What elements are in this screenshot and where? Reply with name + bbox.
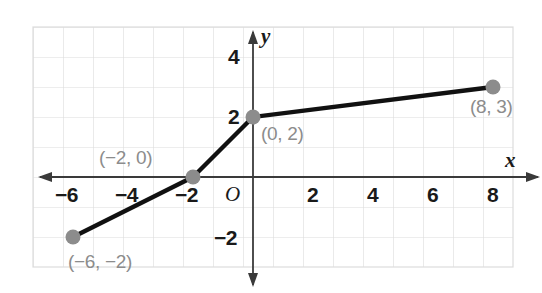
y-tick-label-2: 2: [228, 106, 239, 127]
coordinate-graph-figure: y x O −6 −4 −2 2 4 6 8 4 2 −2 (−6, −2) (…: [0, 0, 542, 293]
data-point-8-3: [486, 80, 501, 95]
point-annotation-8-3: (8, 3): [470, 97, 513, 116]
x-tick-label-2: 2: [307, 184, 318, 205]
x-tick-label-neg4: −4: [115, 184, 138, 205]
x-tick-label-neg6: −6: [55, 184, 78, 205]
x-tick-label-4: 4: [367, 184, 378, 205]
y-tick-label-4: 4: [228, 46, 239, 67]
y-axis-label: y: [261, 26, 270, 47]
x-tick-label-neg2: −2: [175, 184, 198, 205]
x-axis-arrow-right: [526, 172, 540, 182]
point-annotation-neg6-neg2: (−6, −2): [68, 252, 132, 271]
data-point-neg6-neg2: [66, 230, 81, 245]
x-tick-label-8: 8: [487, 184, 498, 205]
x-tick-label-6: 6: [427, 184, 438, 205]
plot-area: [0, 0, 542, 293]
data-point-0-2: [246, 110, 261, 125]
y-axis-arrow-down: [248, 273, 258, 287]
point-annotation-0-2: (0, 2): [261, 124, 304, 143]
x-axis-label: x: [505, 150, 516, 171]
point-annotation-neg2-0: (−2, 0): [99, 148, 152, 167]
origin-label: O: [225, 184, 240, 205]
y-tick-label-neg2: −2: [214, 227, 237, 248]
